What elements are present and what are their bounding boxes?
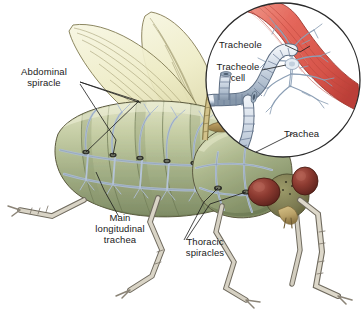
label-tracheole: Tracheole — [219, 39, 262, 50]
foreleg — [300, 200, 352, 304]
label-main-longitudinal-trachea: Main longitudinal trachea — [79, 212, 161, 245]
label-abdominal-spiracle-line1: Abdominal — [8, 66, 80, 77]
hindleg-near — [8, 200, 84, 216]
label-thoracic-spiracles-line2: spiracles — [172, 247, 238, 258]
tracheole-cell — [285, 59, 299, 70]
insect-diagram-illustration — [0, 0, 361, 322]
label-tracheole-cell-line2: cell — [204, 72, 272, 83]
label-thoracic-spiracles: Thoracic spiracles — [172, 236, 238, 258]
insect-tracheal-system-figure: Abdominal spiracle Main longitudinal tra… — [0, 0, 361, 322]
label-abdominal-spiracle-line2: spiracle — [8, 77, 80, 88]
label-thoracic-spiracles-line1: Thoracic — [172, 236, 238, 247]
label-trachea: Trachea — [284, 128, 319, 139]
label-tracheole-cell: Tracheole cell — [204, 61, 272, 83]
label-main-longitudinal-trachea-line1: Main — [79, 212, 161, 223]
label-main-longitudinal-trachea-line3: trachea — [79, 234, 161, 245]
label-tracheole-cell-line1: Tracheole — [204, 61, 272, 72]
label-abdominal-spiracle: Abdominal spiracle — [8, 66, 80, 88]
label-main-longitudinal-trachea-line2: longitudinal — [79, 223, 161, 234]
